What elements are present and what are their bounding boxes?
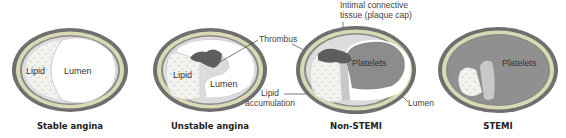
lipid-callout-2: accumulation: [245, 98, 295, 108]
caption-unstable-angina: Unstable angina: [171, 121, 249, 131]
lipid-callout-1: Lipid: [261, 88, 279, 98]
platelets-label: Platelets: [502, 58, 537, 68]
lipid-label: Lipid: [173, 70, 192, 80]
intimal-callout-2: tissue (plaque cap): [340, 10, 412, 20]
panel-non-stemi: Platelets Non-STEMI: [296, 26, 416, 131]
caption-non-stemi: Non-STEMI: [330, 121, 382, 131]
caption-stable-angina: Stable angina: [37, 121, 103, 131]
panel-unstable-angina: Lipid Lumen Unstable angina: [153, 28, 267, 131]
panel-stemi: Platelets STEMI: [438, 27, 558, 131]
panel-stable-angina: Lipid Lumen Stable angina: [12, 28, 128, 131]
intimal-callout-1: Intimal connective: [340, 0, 408, 10]
lumen-label: Lumen: [64, 66, 92, 76]
lipid-label: Lipid: [26, 66, 45, 76]
lumen-label: Lumen: [210, 79, 238, 89]
caption-stemi: STEMI: [483, 121, 512, 131]
lumen-callout: Lumen: [408, 98, 434, 108]
acs-diagram: Lipid Lumen Stable angina Lipid Lumen Un…: [0, 0, 566, 138]
thrombus-callout: Thrombus: [259, 34, 297, 44]
platelets-label: Platelets: [352, 58, 387, 68]
